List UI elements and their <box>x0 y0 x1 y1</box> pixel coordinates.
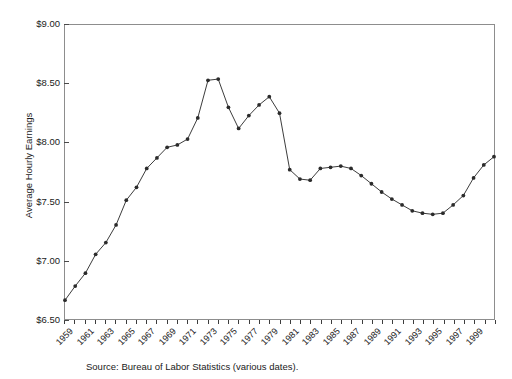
x-axis-tick-mark <box>280 320 281 324</box>
data-point <box>390 197 394 201</box>
data-point <box>94 252 98 256</box>
data-point <box>482 163 486 167</box>
x-axis-tick-mark <box>74 320 75 324</box>
data-point <box>431 212 435 216</box>
x-axis-tick-mark <box>300 320 301 324</box>
x-axis-tick-mark <box>95 320 96 324</box>
x-axis-tick-mark <box>433 320 434 324</box>
data-point <box>370 182 374 186</box>
data-point <box>104 241 108 245</box>
data-point <box>175 143 179 147</box>
plot-area <box>64 24 495 320</box>
data-point <box>165 145 169 149</box>
x-axis-tick-mark <box>146 320 147 324</box>
x-axis-tick-mark <box>218 320 219 324</box>
data-point <box>400 203 404 207</box>
data-point <box>278 111 282 115</box>
data-point <box>227 105 231 109</box>
data-point <box>73 284 77 288</box>
data-point <box>298 177 302 181</box>
data-point <box>492 155 496 159</box>
data-point <box>155 156 159 160</box>
x-axis-tick-mark <box>259 320 260 324</box>
x-axis-tick-mark <box>392 320 393 324</box>
y-axis-title: Average Hourly Earnings <box>23 46 34 286</box>
x-axis-tick-mark <box>495 320 496 324</box>
x-axis-tick-mark <box>321 320 322 324</box>
data-point <box>349 167 353 171</box>
series-markers <box>63 77 496 302</box>
data-point <box>63 298 67 302</box>
x-axis-tick-mark <box>115 320 116 324</box>
x-axis-tick-mark <box>413 320 414 324</box>
x-axis-tick-mark <box>362 320 363 324</box>
data-point <box>421 211 425 215</box>
data-point <box>339 164 343 168</box>
x-axis-tick-mark <box>136 320 137 324</box>
chart-figure: $9.00$8.50$8.00$7.50$7.00$6.50 Average H… <box>0 0 512 379</box>
data-point <box>380 190 384 194</box>
y-axis-tick-mark <box>64 320 69 321</box>
y-axis-tick-mark <box>64 142 69 143</box>
x-axis-tick-mark <box>382 320 383 324</box>
data-point <box>461 194 465 198</box>
y-axis-tick-mark <box>64 83 69 84</box>
y-axis-tick-mark <box>64 202 69 203</box>
x-axis-tick-mark <box>341 320 342 324</box>
data-point <box>359 174 363 178</box>
data-point <box>206 78 210 82</box>
data-point <box>451 203 455 207</box>
x-axis-tick-mark <box>167 320 168 324</box>
x-axis-tick-mark <box>105 320 106 324</box>
data-point <box>308 178 312 182</box>
data-point <box>247 114 251 118</box>
y-axis-tick-mark <box>64 24 69 25</box>
y-axis-tick-label: $9.00 <box>8 19 60 29</box>
data-point <box>216 77 220 81</box>
x-axis-tick-mark <box>464 320 465 324</box>
y-axis-tick-label: $7.00 <box>8 256 60 266</box>
x-axis-tick-mark <box>372 320 373 324</box>
data-point <box>196 116 200 120</box>
data-point <box>329 165 333 169</box>
y-axis-tick-label: $6.50 <box>8 315 60 325</box>
data-point <box>318 167 322 171</box>
data-point <box>145 167 149 171</box>
x-axis-tick-mark <box>403 320 404 324</box>
x-axis-tick-mark <box>197 320 198 324</box>
x-axis-tick-mark <box>238 320 239 324</box>
data-point <box>257 103 261 107</box>
x-axis-tick-mark <box>269 320 270 324</box>
x-axis-tick-mark <box>249 320 250 324</box>
y-axis-tick-label: $8.50 <box>8 78 60 88</box>
x-axis-tick-mark <box>444 320 445 324</box>
series-line-chart <box>65 25 494 319</box>
data-point <box>124 198 128 202</box>
x-axis-tick-mark <box>126 320 127 324</box>
y-axis-tick-label: $7.50 <box>8 197 60 207</box>
y-axis-tick-mark <box>64 261 69 262</box>
clipped-header-text <box>60 0 480 2</box>
data-point <box>237 127 241 131</box>
x-axis-tick-mark <box>454 320 455 324</box>
x-axis-tick-mark <box>187 320 188 324</box>
x-axis-tick-mark <box>351 320 352 324</box>
data-point <box>84 271 88 275</box>
x-axis-tick-mark <box>208 320 209 324</box>
data-point <box>472 176 476 180</box>
x-axis-tick-mark <box>474 320 475 324</box>
x-axis-tick-mark <box>290 320 291 324</box>
x-axis-tick-mark <box>228 320 229 324</box>
x-axis-tick-mark <box>177 320 178 324</box>
x-axis-tick-mark <box>85 320 86 324</box>
data-point <box>267 95 271 99</box>
x-axis-tick-mark <box>310 320 311 324</box>
x-axis-tick-mark <box>423 320 424 324</box>
data-point <box>135 185 139 189</box>
y-axis-tick-label: $8.00 <box>8 137 60 147</box>
data-point <box>410 209 414 213</box>
x-axis-tick-mark <box>331 320 332 324</box>
x-axis-tick-mark <box>156 320 157 324</box>
source-note: Source: Bureau of Labor Statistics (vari… <box>86 361 298 372</box>
data-point <box>186 137 190 141</box>
